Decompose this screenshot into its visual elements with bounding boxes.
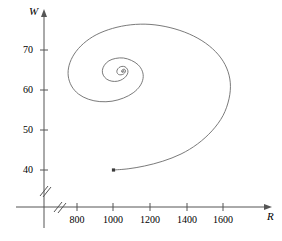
y-tick-label-60: 60 [11, 85, 33, 95]
x-axis-group [16, 204, 272, 210]
y-tick-label-40: 40 [11, 165, 33, 175]
x-tick-label-1000: 1000 [98, 215, 128, 225]
y-axis-break-mark [40, 186, 51, 197]
plot-canvas [0, 0, 282, 241]
trajectory-curve [68, 24, 230, 170]
y-axis-arrowhead [41, 9, 47, 17]
x-tick-label-1400: 1400 [172, 215, 202, 225]
x-tick-label-800: 800 [62, 215, 92, 225]
y-tick-label-50: 50 [11, 125, 33, 135]
y-axis-label-W: W [29, 6, 38, 17]
x-tick-label-1600: 1600 [208, 215, 238, 225]
phase-plane-figure: W R 70 60 50 40 800 1000 1200 1400 1600 [0, 0, 282, 241]
x-axis-label-R: R [267, 211, 274, 222]
x-tick-label-1200: 1200 [135, 215, 165, 225]
y-tick-label-70: 70 [11, 45, 33, 55]
trajectory-start-marker [112, 168, 115, 171]
